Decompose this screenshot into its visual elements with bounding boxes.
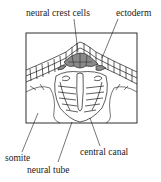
label-somite: somite	[5, 154, 30, 164]
label-ectoderm: ectoderm	[116, 9, 151, 19]
leader-lines	[22, 19, 118, 162]
central-canal	[77, 73, 84, 111]
label-neural-crest-cells: neural crest cells	[26, 9, 90, 19]
label-neural-tube: neural tube	[27, 166, 69, 176]
label-central-canal: central canal	[80, 148, 128, 158]
